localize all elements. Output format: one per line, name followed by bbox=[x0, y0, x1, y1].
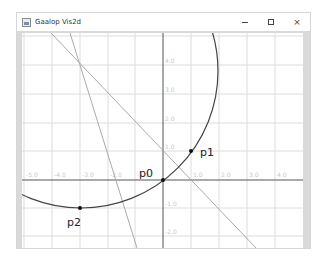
x-tick-label: -2.0 bbox=[110, 171, 122, 178]
plot-canvas[interactable]: -5.0 -4.0 -3.0 -2.0 -1.0 1.0 2.0 3.0 4.0… bbox=[22, 33, 303, 248]
x-tick-label: -3.0 bbox=[82, 171, 94, 178]
y-tick-label: 4.0 bbox=[165, 57, 175, 64]
x-tick-label: 4.0 bbox=[277, 171, 287, 178]
y-tick-label: 1.0 bbox=[165, 143, 175, 150]
window-title: Gaalop Vis2d bbox=[35, 18, 81, 26]
x-tick-label: -4.0 bbox=[54, 171, 66, 178]
point-p2 bbox=[78, 206, 82, 210]
title-bar[interactable]: Gaalop Vis2d × bbox=[17, 13, 310, 31]
maximize-button[interactable] bbox=[258, 13, 284, 31]
point-label-p2: p2 bbox=[67, 216, 81, 229]
x-tick-label: 1.0 bbox=[193, 171, 203, 178]
app-icon bbox=[22, 18, 31, 27]
y-tick-label: 2.0 bbox=[165, 115, 175, 122]
window-controls: × bbox=[232, 13, 310, 31]
y-tick-label: -2.0 bbox=[165, 228, 177, 235]
point-label-p1: p1 bbox=[200, 146, 214, 159]
minimize-button[interactable] bbox=[232, 13, 258, 31]
point-p0 bbox=[161, 178, 165, 182]
circle bbox=[22, 33, 218, 208]
close-button[interactable]: × bbox=[284, 13, 310, 31]
x-tick-label: -5.0 bbox=[26, 171, 38, 178]
x-tick-label: 3.0 bbox=[249, 171, 259, 178]
plot-svg: -5.0 -4.0 -3.0 -2.0 -1.0 1.0 2.0 3.0 4.0… bbox=[22, 33, 303, 248]
x-tick-label: 2.0 bbox=[221, 171, 231, 178]
point-label-p0: p0 bbox=[139, 167, 153, 180]
y-tick-label: 3.0 bbox=[165, 86, 175, 93]
point-p1 bbox=[189, 149, 193, 153]
point-labels: p0 p1 p2 bbox=[67, 146, 214, 229]
y-tick-label: -1.0 bbox=[165, 200, 177, 207]
x-tick-labels: -5.0 -4.0 -3.0 -2.0 -1.0 1.0 2.0 3.0 4.0 bbox=[26, 171, 287, 178]
